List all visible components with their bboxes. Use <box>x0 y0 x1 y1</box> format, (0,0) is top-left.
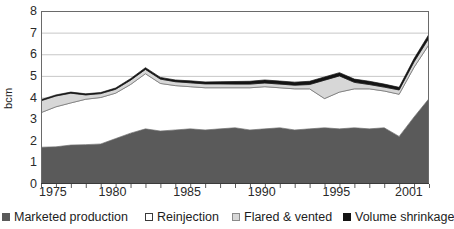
x-axis-ticks <box>0 184 451 190</box>
y-tick-3: 3 <box>19 113 37 125</box>
legend-swatch-icon <box>2 213 10 221</box>
chart-legend: Marketed productionReinjectionFlared & v… <box>0 208 451 228</box>
legend-item-volume-shrinkage[interactable]: Volume shrinkage <box>343 208 454 226</box>
y-tick-6: 6 <box>19 48 37 60</box>
legend-swatch-icon <box>343 213 351 221</box>
y-tick-4: 4 <box>19 92 37 104</box>
x-axis-tick-labels: 197519801985199019952001 <box>0 186 451 204</box>
y-tick-1: 1 <box>19 156 37 168</box>
y-tick-2: 2 <box>19 135 37 147</box>
legend-item-marketed-production[interactable]: Marketed production <box>2 208 128 226</box>
legend-swatch-icon <box>232 213 240 221</box>
plot-area <box>41 11 429 184</box>
y-tick-5: 5 <box>19 70 37 82</box>
legend-label: Volume shrinkage <box>355 211 454 224</box>
y-tick-8: 8 <box>19 5 37 17</box>
y-tick-7: 7 <box>19 27 37 39</box>
legend-label: Marketed production <box>14 211 128 224</box>
legend-label: Reinjection <box>157 211 219 224</box>
y-axis-tick-labels: 876543210 <box>0 0 37 190</box>
legend-label: Flared & vented <box>244 211 332 224</box>
legend-item-reinjection[interactable]: Reinjection <box>145 208 219 226</box>
plot-svg <box>41 11 429 184</box>
legend-swatch-icon <box>145 213 153 221</box>
legend-item-flared-vented[interactable]: Flared & vented <box>232 208 332 226</box>
